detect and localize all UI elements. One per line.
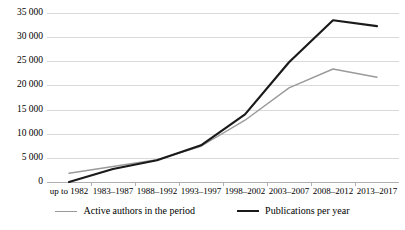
legend-item-label: Active authors in the period [83,205,195,217]
x-axis-tickmark [135,182,136,186]
x-axis-tickmark [355,182,356,186]
x-axis-tickmark [91,182,92,186]
series-line-active-authors [69,69,377,173]
legend-item-publications: Publications per year [237,205,349,217]
legend-line-swatch-icon [55,211,77,212]
x-axis-tickmark [223,182,224,186]
line-chart: 05 00010 00015 00020 00025 00030 00035 0… [0,0,405,230]
legend-item-active-authors: Active authors in the period [55,205,195,217]
data-series-layer [0,0,405,230]
chart-legend: Active authors in the period Publication… [0,202,405,220]
series-line-publications [69,20,377,182]
legend-line-swatch-icon [237,210,259,212]
x-axis-tickmark [267,182,268,186]
x-axis-tickmark [179,182,180,186]
legend-item-label: Publications per year [265,205,349,217]
x-axis-tickmark [311,182,312,186]
